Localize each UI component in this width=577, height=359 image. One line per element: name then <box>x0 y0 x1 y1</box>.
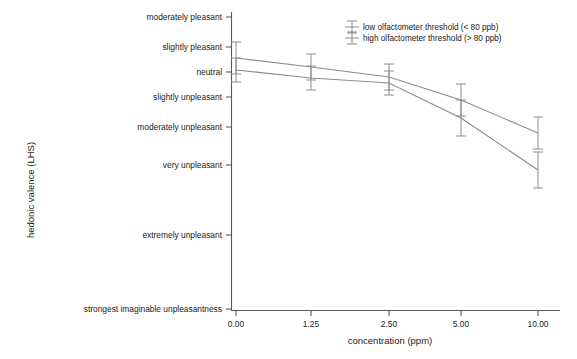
legend-label: low olfactometer threshold (< 80 ppb) <box>363 23 499 32</box>
y-tick-label: extremely unpleasant <box>142 230 222 240</box>
x-axis-title: concentration (ppm) <box>348 335 432 346</box>
series-high-threshold-line <box>236 70 538 170</box>
y-tick-label: slightly unpleasant <box>153 92 223 102</box>
y-axis-tick-labels: moderately pleasant slightly pleasant ne… <box>84 12 223 314</box>
x-tick-label: 5.00 <box>453 319 470 329</box>
y-tick-label: strongest imaginable unpleasantness <box>84 304 222 314</box>
errorbar-marker-icon <box>345 32 359 44</box>
chart-legend: low olfactometer threshold (< 80 ppb) hi… <box>345 21 502 44</box>
legend-entry-high-threshold[interactable]: high olfactometer threshold (> 80 ppb) <box>345 32 502 44</box>
y-axis-title: hedonic valence (LHS) <box>25 142 36 238</box>
y-tick-label: neutral <box>196 67 222 77</box>
x-axis-ticks <box>236 311 538 317</box>
y-tick-label: moderately unpleasant <box>137 122 222 132</box>
series-high-threshold-errorbars <box>231 58 543 188</box>
hedonic-valence-line-chart: hedonic valence (LHS) moderately pleasan… <box>0 0 577 359</box>
x-tick-label: 0.00 <box>228 319 245 329</box>
x-tick-label: 10.00 <box>528 319 549 329</box>
series-high-threshold <box>231 58 543 188</box>
y-tick-label: very unpleasant <box>163 160 223 170</box>
chart-figure: hedonic valence (LHS) moderately pleasan… <box>0 0 577 359</box>
y-tick-label: slightly pleasant <box>162 42 222 52</box>
y-axis-ticks <box>226 17 232 309</box>
legend-entry-low-threshold[interactable]: low olfactometer threshold (< 80 ppb) <box>345 21 499 33</box>
legend-label: high olfactometer threshold (> 80 ppb) <box>363 34 502 43</box>
x-tick-label: 1.25 <box>303 319 320 329</box>
errorbar-marker-icon <box>345 21 359 33</box>
x-tick-label: 2.50 <box>381 319 398 329</box>
x-axis-tick-labels: 0.00 1.25 2.50 5.00 10.00 <box>228 319 549 329</box>
y-tick-label: moderately pleasant <box>147 12 223 22</box>
